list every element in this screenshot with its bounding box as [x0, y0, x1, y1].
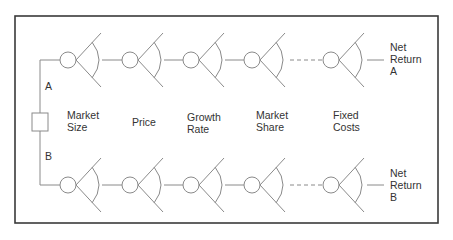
stage-label-market-share: Market Share — [256, 109, 288, 133]
chance-node — [60, 52, 76, 68]
chance-node — [244, 52, 260, 68]
stage-label-price: Price — [132, 116, 156, 128]
branch-label-a: A — [45, 80, 52, 92]
chance-node — [183, 52, 199, 68]
chance-node — [60, 177, 76, 193]
stage-label-market-size: Market Size — [67, 109, 99, 133]
branch-label-b: B — [45, 150, 52, 162]
stage-label-growth-rate: Growth Rate — [187, 111, 221, 135]
outcome-net-return-b: Net Return B — [390, 167, 422, 203]
chance-node — [183, 177, 199, 193]
chance-node — [323, 52, 339, 68]
chance-node — [122, 52, 138, 68]
chance-node — [244, 177, 260, 193]
decision-node-square — [32, 113, 48, 131]
chance-node — [323, 177, 339, 193]
stage-label-fixed-costs: Fixed Costs — [333, 109, 360, 133]
branch-b-row — [40, 158, 384, 212]
chance-node — [122, 177, 138, 193]
outcome-net-return-a: Net Return A — [390, 41, 422, 77]
branch-a-row — [40, 33, 384, 87]
